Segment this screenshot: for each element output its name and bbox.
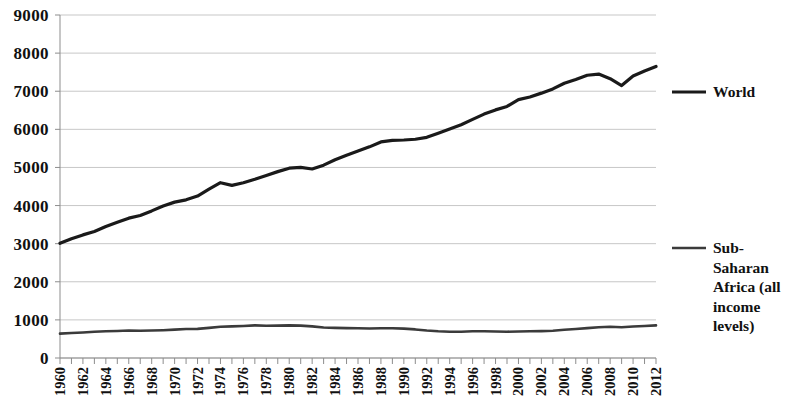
- x-tick-label: 1980: [281, 367, 297, 396]
- y-axis-tick-labels: 0100020003000400050006000700080009000: [13, 6, 49, 368]
- y-tick-label: 0: [40, 349, 49, 368]
- y-tick-label: 9000: [13, 6, 49, 25]
- x-tick-label: 2012: [648, 367, 664, 396]
- chart-container: 0100020003000400050006000700080009000 19…: [0, 0, 811, 414]
- legend-label-sub-saharan-africa: Saharan: [713, 259, 769, 276]
- x-tick-label: 1968: [144, 367, 160, 396]
- x-tick-label: 1984: [327, 367, 343, 396]
- series-line-sub-saharan-africa: [60, 325, 656, 333]
- legend-label-world: World: [713, 83, 756, 100]
- y-tick-label: 3000: [13, 235, 49, 254]
- y-tick-label: 4000: [13, 197, 49, 216]
- x-tick-label: 1974: [212, 367, 228, 396]
- y-tick-label: 6000: [13, 120, 49, 139]
- x-tick-label: 1990: [396, 367, 412, 396]
- y-tick-label: 8000: [13, 44, 49, 63]
- line-chart: 0100020003000400050006000700080009000 19…: [0, 0, 811, 414]
- y-tick-label: 2000: [13, 273, 49, 292]
- axis-ticks: [55, 15, 656, 364]
- legend-label-sub-saharan-africa: levels): [713, 317, 754, 335]
- x-tick-label: 1992: [419, 367, 435, 396]
- x-tick-label: 2002: [533, 367, 549, 396]
- x-tick-label: 1988: [373, 367, 389, 396]
- legend-label-sub-saharan-africa: income: [713, 298, 760, 315]
- x-tick-label: 1970: [167, 367, 183, 396]
- x-tick-label: 1976: [235, 367, 251, 396]
- x-tick-label: 1986: [350, 367, 366, 396]
- x-tick-label: 1960: [52, 367, 68, 396]
- data-series: [60, 66, 656, 333]
- axes: [60, 15, 656, 358]
- x-tick-label: 1978: [258, 367, 274, 396]
- x-tick-label: 1982: [304, 367, 320, 396]
- x-axis-tick-labels: 1960196219641966196819701972197419761978…: [52, 367, 664, 396]
- legend-label-sub-saharan-africa: Sub-: [713, 239, 744, 256]
- x-tick-label: 2006: [579, 367, 595, 396]
- y-tick-label: 5000: [13, 158, 49, 177]
- x-tick-label: 2004: [556, 367, 572, 396]
- x-tick-label: 1966: [121, 367, 137, 396]
- x-tick-label: 1998: [488, 367, 504, 396]
- x-tick-label: 1994: [442, 367, 458, 396]
- chart-legend: WorldSub-SaharanAfrica (allincomelevels): [672, 83, 781, 335]
- x-tick-label: 2010: [625, 367, 641, 396]
- x-tick-label: 1972: [190, 367, 206, 396]
- gridlines: [60, 15, 656, 358]
- legend-label-sub-saharan-africa: Africa (all: [713, 278, 781, 296]
- x-tick-label: 1962: [75, 367, 91, 396]
- x-tick-label: 2008: [602, 367, 618, 396]
- x-tick-label: 1996: [465, 367, 481, 396]
- y-tick-label: 7000: [13, 82, 49, 101]
- x-tick-label: 2000: [510, 367, 526, 396]
- x-tick-label: 1964: [98, 367, 114, 396]
- y-tick-label: 1000: [13, 311, 49, 330]
- series-line-world: [60, 66, 656, 243]
